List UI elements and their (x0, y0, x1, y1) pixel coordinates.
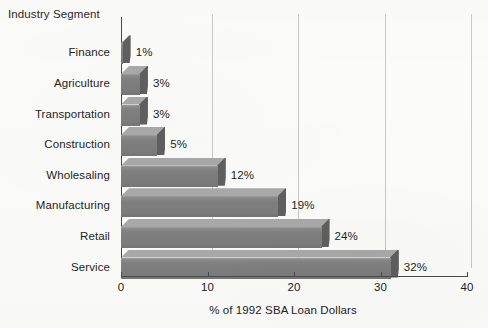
x-axis-tick (294, 272, 295, 276)
bar-front-face (121, 227, 322, 248)
category-label: Finance (68, 46, 110, 58)
category-label: Manufacturing (36, 199, 110, 211)
bar (121, 188, 293, 216)
bar-side-face (122, 35, 131, 63)
category-label: Service (71, 261, 110, 273)
bar-top-face (121, 219, 329, 227)
bar (121, 97, 155, 125)
x-axis-tick-label: 10 (201, 281, 214, 293)
x-axis-tick (208, 272, 209, 276)
category-label: Transportation (35, 108, 110, 120)
bar-front-face (121, 166, 218, 187)
bar (121, 66, 155, 94)
x-axis-tick-label: 20 (288, 281, 301, 293)
bar (121, 219, 337, 247)
bar-value-label: 32% (404, 261, 427, 273)
bar-value-label: 5% (170, 138, 187, 150)
x-axis-tick-label: 40 (461, 281, 474, 293)
x-axis-line (121, 276, 468, 277)
bar-top-face (121, 158, 225, 166)
bar-front-face (121, 196, 278, 217)
bar-chart: Industry Segment 1%3%3%5%12%19%24%32%010… (0, 0, 488, 328)
category-label: Agriculture (54, 77, 110, 89)
x-axis-tick (467, 272, 468, 276)
gridline (385, 14, 386, 268)
x-axis-tick-label: 30 (374, 281, 387, 293)
bar-top-face (121, 188, 285, 196)
x-axis-title: % of 1992 SBA Loan Dollars (209, 304, 357, 316)
category-label: Retail (80, 230, 110, 242)
x-axis-tick (121, 272, 122, 276)
bar-front-face (121, 135, 157, 156)
gridline (471, 14, 472, 268)
category-label: Construction (44, 138, 110, 150)
bar (121, 158, 233, 186)
bar (121, 250, 406, 278)
bar-top-face (121, 250, 398, 258)
bar-value-label: 24% (335, 230, 358, 242)
category-label: Wholesaling (46, 169, 110, 181)
bar (121, 127, 172, 155)
bar-front-face (121, 74, 140, 95)
bar-front-face (121, 105, 140, 126)
bar-value-label: 3% (153, 77, 170, 89)
bar-value-label: 1% (136, 46, 153, 58)
x-axis-tick-label: 0 (118, 281, 124, 293)
bar-value-label: 3% (153, 108, 170, 120)
bar-front-face (121, 43, 123, 64)
bar-value-label: 12% (231, 169, 254, 181)
bar-value-label: 19% (291, 199, 314, 211)
x-axis-tick (381, 272, 382, 276)
